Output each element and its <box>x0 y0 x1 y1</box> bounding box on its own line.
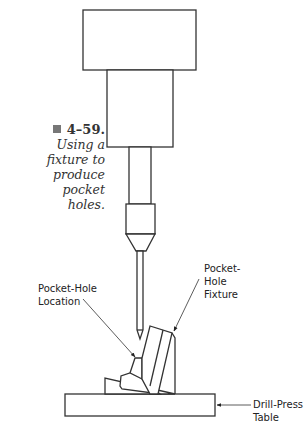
spindle-shaft <box>129 147 151 204</box>
caption-text: Using a fixture to produce pocket holes. <box>25 137 105 212</box>
chuck-cone <box>126 234 155 251</box>
label-pocket-hole-fixture: Pocket-Hole Fixture <box>204 262 254 301</box>
figure-caption: 4–59. Using a fixture to produce pocket … <box>0 122 105 212</box>
figure-number-text: 4–59. <box>67 122 105 137</box>
drill-bit <box>137 251 143 339</box>
drill-press-table <box>65 394 215 416</box>
label-pocket-hole-location: Pocket-Hole Location <box>38 282 118 308</box>
label-drill-press-table: Drill-Press Table <box>253 398 307 424</box>
square-marker-icon <box>53 125 61 133</box>
chuck <box>126 204 155 234</box>
drill-press-diagram <box>0 0 307 445</box>
motor-housing <box>83 10 196 70</box>
fixture-leader <box>174 279 199 331</box>
figure-number: 4–59. <box>0 122 105 137</box>
quill-housing <box>107 70 173 147</box>
